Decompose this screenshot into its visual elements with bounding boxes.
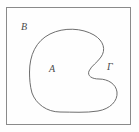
curve-label-gamma: Γ [107, 62, 113, 72]
jordan-curve [30, 29, 118, 112]
interior-region-label-a: A [49, 64, 55, 74]
diagram-canvas [0, 0, 139, 132]
exterior-region-label-b: B [21, 22, 27, 32]
set-diagram-figure: B A Γ [0, 0, 139, 132]
